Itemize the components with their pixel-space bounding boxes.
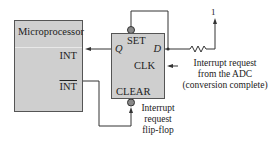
arrow-up-icon: [213, 18, 217, 24]
arrow-left-icon: [85, 47, 91, 51]
pin-set: SET: [127, 35, 146, 46]
pin-q: Q: [115, 43, 123, 54]
flip-flop-caption-line2: request: [138, 114, 178, 125]
pin-d: D: [153, 43, 161, 54]
clear-bubble: [128, 99, 135, 106]
flip-flop-caption: Interrupt request flip-flop: [138, 103, 178, 136]
clk-source-line2: from the ADC: [178, 69, 269, 80]
microprocessor-block: Microprocessor INT INT: [14, 20, 83, 112]
junction-dot: [166, 47, 169, 50]
microprocessor-title: Microprocessor: [18, 26, 84, 37]
clk-source-caption: Interrupt request from the ADC (conversi…: [178, 58, 269, 91]
clk-source-line1: Interrupt request: [178, 58, 269, 69]
clk-source-line3: (conversion complete): [178, 80, 269, 91]
arrow-up-icon: [129, 107, 133, 113]
pin-int-bar: INT: [60, 81, 78, 92]
supply-label: 1: [211, 7, 216, 18]
flip-flop-block: SET Q D CLK CLEAR: [111, 33, 165, 99]
pin-clear: CLEAR: [116, 86, 150, 97]
pin-int: INT: [60, 50, 78, 61]
flip-flop-caption-line3: flip-flop: [138, 125, 178, 136]
pin-clk: CLK: [134, 60, 155, 71]
arrow-left-icon: [167, 64, 173, 68]
flip-flop-caption-line1: Interrupt: [138, 103, 178, 114]
